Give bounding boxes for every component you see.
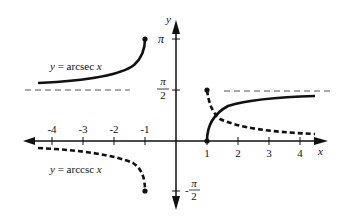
y-tick-label-neg-pi-half-num: π	[191, 177, 197, 189]
x-axis-right-arrow-icon	[314, 137, 328, 145]
arccsc-label-text: = arccsc	[55, 163, 97, 175]
x-axis-left-arrow-icon	[23, 137, 35, 145]
arccsc-label-var: x	[96, 163, 102, 175]
x-tick-label: 2	[235, 147, 241, 159]
x-tick-label: -3	[78, 123, 88, 135]
arccsc-label: y = arccsc x	[49, 163, 102, 175]
y-axis-up-arrow-icon	[172, 20, 180, 34]
graph-figure: -4 -3 -2 -1 1 2 3 4 x y π π 2 - π 2 y = …	[0, 0, 351, 223]
arcsec-label: y = arcsec x	[49, 60, 102, 72]
x-tick-label: -4	[47, 123, 57, 135]
y-tick-label-pi-half-den: 2	[160, 89, 166, 101]
x-tick-label: -2	[109, 123, 118, 135]
y-tick-label-pi: π	[158, 32, 165, 46]
y-tick-label-pi-half-num: π	[160, 75, 166, 87]
y-axis-down-arrow-icon	[172, 196, 180, 210]
y-tick-label-neg-sign: -	[185, 184, 189, 196]
y-axis-label: y	[165, 13, 171, 25]
x-tick-label: 4	[297, 147, 303, 159]
arcsec-label-var: x	[96, 60, 102, 72]
x-tick-label: -1	[140, 123, 149, 135]
arccsc-endpoint-right	[204, 87, 209, 92]
arcsec-endpoint-right	[204, 138, 209, 143]
arcsec-label-text: = arcsec	[55, 60, 97, 72]
x-axis-label: x	[317, 145, 323, 157]
x-tick-label: 3	[266, 147, 272, 159]
arcsec-endpoint-left	[142, 36, 147, 41]
arccsc-endpoint-left	[142, 188, 147, 193]
y-tick-label-neg-pi-half-den: 2	[191, 190, 197, 202]
x-tick-label: 1	[204, 147, 210, 159]
graph-canvas: -4 -3 -2 -1 1 2 3 4 x y π π 2 - π 2 y = …	[0, 0, 351, 223]
